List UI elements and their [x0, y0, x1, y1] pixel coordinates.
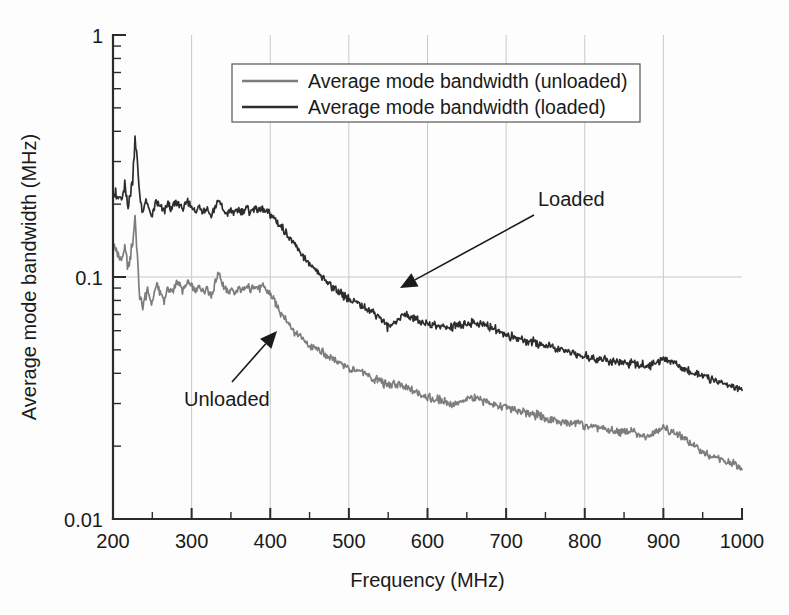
y-tick-label: 0.01: [64, 509, 103, 531]
x-tick-label: 400: [254, 530, 287, 552]
legend-label-0: Average mode bandwidth (unloaded): [308, 70, 627, 92]
annotation-label: Loaded: [538, 188, 605, 210]
x-tick-label: 1000: [720, 530, 765, 552]
annotation-label: Unloaded: [184, 388, 270, 410]
annotation-arrow-line: [232, 344, 266, 382]
x-tick-label: 600: [411, 530, 444, 552]
x-tick-label: 800: [568, 530, 601, 552]
x-tick-label: 200: [96, 530, 129, 552]
x-tick-label: 700: [489, 530, 522, 552]
x-tick-label: 900: [647, 530, 680, 552]
y-tick-label: 0.1: [75, 267, 103, 289]
legend-label-1: Average mode bandwidth (loaded): [308, 96, 606, 118]
chart-figure: 20030040050060070080090010000.010.11Freq…: [0, 0, 789, 615]
y-tick-label: 1: [92, 25, 103, 47]
annotations-layer: LoadedUnloaded: [184, 188, 605, 410]
annotation-loaded: Loaded: [400, 188, 605, 288]
x-axis-title: Frequency (MHz): [350, 569, 504, 591]
annotation-unloaded: Unloaded: [184, 331, 277, 410]
y-axis-title: Average mode bandwidth (MHz): [18, 134, 40, 420]
x-tick-label: 300: [175, 530, 208, 552]
annotation-arrow-head: [400, 273, 419, 288]
annotation-arrow-line: [415, 215, 534, 280]
chart-legend: Average mode bandwidth (unloaded)Average…: [232, 64, 640, 122]
x-tick-label: 500: [332, 530, 365, 552]
chart-canvas: 20030040050060070080090010000.010.11Freq…: [0, 0, 789, 615]
